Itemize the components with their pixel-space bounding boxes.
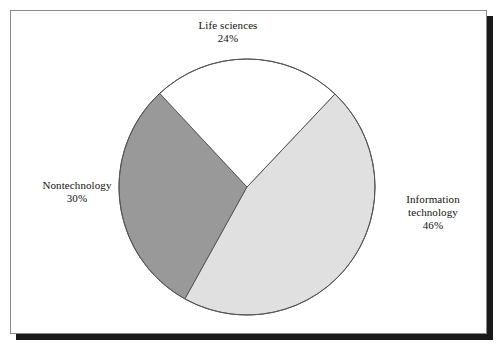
slice-label-information-technology-value: 46%	[379, 219, 487, 232]
slice-label-nontechnology-value: 30%	[17, 192, 137, 205]
slice-label-life-sciences-name: Life sciences	[148, 19, 308, 32]
slice-label-information-technology-name-line1: Information	[379, 193, 487, 206]
pie-chart-svg	[11, 11, 488, 335]
pie-plot-area: Life sciences 24% Nontechnology 30% Info…	[11, 11, 488, 335]
slice-label-life-sciences: Life sciences 24%	[148, 19, 308, 45]
slice-label-life-sciences-value: 24%	[148, 32, 308, 45]
slice-label-information-technology-name-line2: technology	[379, 206, 487, 219]
chart-frame: Life sciences 24% Nontechnology 30% Info…	[10, 10, 487, 334]
slice-label-nontechnology: Nontechnology 30%	[17, 179, 137, 205]
pie-chart-figure: Life sciences 24% Nontechnology 30% Info…	[0, 0, 497, 351]
slice-label-nontechnology-name: Nontechnology	[17, 179, 137, 192]
slice-label-information-technology: Information technology 46%	[379, 193, 487, 232]
